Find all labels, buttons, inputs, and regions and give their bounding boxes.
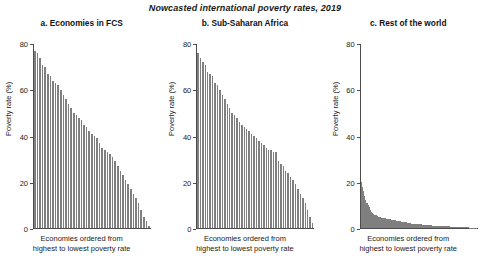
x-axis-title-b-line2: highest to lowest poverty rate — [163, 244, 326, 254]
panel-economies-in-fcs: a. Economies in FCS Poverty rate (%) 020… — [0, 18, 163, 276]
x-axis-title-a: Economies ordered from highest to lowest… — [0, 234, 163, 254]
y-tick-mark-a-80 — [30, 44, 33, 45]
x-axis-title-c-line2: highest to lowest poverty rate — [327, 244, 490, 254]
y-tick-mark-b-60 — [193, 90, 196, 91]
panel-title-b: b. Sub-Saharan Africa — [163, 18, 326, 28]
y-tick-mark-a-0 — [30, 229, 33, 230]
y-tick-label-b-40: 40 — [183, 132, 191, 141]
y-tick-mark-c-0 — [357, 229, 360, 230]
x-axis-line-b — [196, 228, 314, 229]
y-tick-label-a-80: 80 — [20, 40, 28, 49]
panel-title-c: c. Rest of the world — [327, 18, 490, 28]
poverty-rate-figure: Nowcasted international poverty rates, 2… — [0, 0, 490, 278]
y-axis-title-b: Poverty rate (%) — [167, 82, 176, 136]
y-tick-mark-b-40 — [193, 137, 196, 138]
x-axis-title-b-line1: Economies ordered from — [163, 234, 326, 244]
x-axis-title-c-line1: Economies ordered from — [327, 234, 490, 244]
y-axis-title-c: Poverty rate (%) — [331, 82, 340, 136]
y-tick-label-c-80: 80 — [346, 40, 354, 49]
y-tick-label-a-60: 60 — [20, 86, 28, 95]
y-tick-mark-b-20 — [193, 183, 196, 184]
y-tick-label-c-20: 20 — [346, 178, 354, 187]
y-tick-label-c-60: 60 — [346, 86, 354, 95]
y-tick-mark-c-20 — [357, 183, 360, 184]
bar — [148, 226, 151, 228]
x-axis-line-c — [360, 228, 478, 229]
y-tick-mark-c-80 — [357, 44, 360, 45]
y-tick-mark-c-60 — [357, 90, 360, 91]
y-tick-mark-b-80 — [193, 44, 196, 45]
plot-area-b: 020406080 — [196, 44, 314, 229]
x-axis-title-a-line1: Economies ordered from — [0, 234, 163, 244]
y-tick-mark-c-40 — [357, 137, 360, 138]
y-tick-mark-b-0 — [193, 229, 196, 230]
panel-title-a: a. Economies in FCS — [0, 18, 163, 28]
bar-series-c — [361, 44, 478, 228]
y-axis-title-a: Poverty rate (%) — [4, 82, 13, 136]
y-tick-label-b-0: 0 — [187, 225, 191, 234]
y-tick-label-c-40: 40 — [346, 132, 354, 141]
y-tick-mark-a-20 — [30, 183, 33, 184]
y-tick-label-b-20: 20 — [183, 178, 191, 187]
y-tick-label-c-0: 0 — [350, 225, 354, 234]
plot-area-c: 020406080 — [360, 44, 478, 229]
y-tick-label-a-40: 40 — [20, 132, 28, 141]
y-tick-label-b-80: 80 — [183, 40, 191, 49]
bar — [312, 223, 314, 228]
x-axis-title-b: Economies ordered from highest to lowest… — [163, 234, 326, 254]
x-axis-line-a — [33, 228, 151, 229]
plot-area-a: 020406080 — [33, 44, 151, 229]
x-axis-title-c: Economies ordered from highest to lowest… — [327, 234, 490, 254]
y-tick-mark-a-60 — [30, 90, 33, 91]
y-tick-label-a-0: 0 — [24, 225, 28, 234]
bar-series-a — [34, 44, 151, 228]
panel-sub-saharan-africa: b. Sub-Saharan Africa Poverty rate (%) 0… — [163, 18, 326, 276]
figure-title: Nowcasted international poverty rates, 2… — [0, 3, 490, 13]
panel-rest-of-the-world: c. Rest of the world Poverty rate (%) 02… — [327, 18, 490, 276]
x-axis-title-a-line2: highest to lowest poverty rate — [0, 244, 163, 254]
y-tick-mark-a-40 — [30, 137, 33, 138]
panel-container: a. Economies in FCS Poverty rate (%) 020… — [0, 18, 490, 276]
bar-series-b — [197, 44, 314, 228]
y-tick-label-b-60: 60 — [183, 86, 191, 95]
y-tick-label-a-20: 20 — [20, 178, 28, 187]
